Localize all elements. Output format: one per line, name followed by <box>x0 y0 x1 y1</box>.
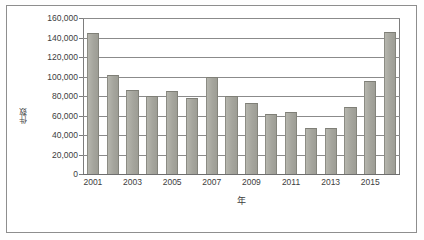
bar <box>305 128 317 174</box>
bar <box>206 77 218 174</box>
x-axis-tick-label: 2005 <box>152 177 192 188</box>
x-axis-tick-label: 2001 <box>73 177 113 188</box>
y-axis-tick-label: 100,000 <box>28 72 78 81</box>
bar <box>384 32 396 174</box>
bar <box>126 90 138 174</box>
y-axis-tick-label: 80,000 <box>28 92 78 101</box>
x-axis-tick-label-group: 20012003200520072009201120132015 <box>83 177 400 191</box>
y-axis-tick-label: 140,000 <box>28 33 78 42</box>
y-axis-tick-label: 40,000 <box>28 131 78 140</box>
bar <box>265 114 277 174</box>
x-axis-tick-label: 2013 <box>311 177 351 188</box>
y-axis-tick-label: 120,000 <box>28 53 78 62</box>
y-axis-tick-label: 160,000 <box>28 14 78 23</box>
x-axis-tick-label: 2003 <box>113 177 153 188</box>
x-axis-baseline <box>83 174 400 175</box>
x-axis-tick-label: 2015 <box>350 177 390 188</box>
y-axis-tick-mark <box>79 174 83 175</box>
x-axis-title: 年 <box>83 196 400 207</box>
bar <box>364 81 376 174</box>
figure-container: 件数 020,00040,00060,00080,000100,000120,0… <box>0 0 424 240</box>
bar <box>166 91 178 174</box>
y-axis-tick-label: 0 <box>28 170 78 179</box>
bar <box>344 107 356 174</box>
bar <box>186 98 198 174</box>
bar <box>225 96 237 174</box>
bar <box>146 96 158 174</box>
plot-area <box>83 18 400 174</box>
x-axis-tick-label: 2007 <box>192 177 232 188</box>
y-axis-tick-label: 20,000 <box>28 150 78 159</box>
bar <box>285 112 297 174</box>
y-axis-tick-label: 60,000 <box>28 111 78 120</box>
bar <box>245 103 257 174</box>
bar <box>325 128 337 174</box>
bar-series-group <box>83 18 400 174</box>
bar <box>87 33 99 174</box>
x-axis-tick-label: 2011 <box>271 177 311 188</box>
y-axis-tick-label-group: 020,00040,00060,00080,000100,000120,0001… <box>28 18 78 174</box>
bar <box>107 75 119 174</box>
x-axis-tick-label: 2009 <box>231 177 271 188</box>
